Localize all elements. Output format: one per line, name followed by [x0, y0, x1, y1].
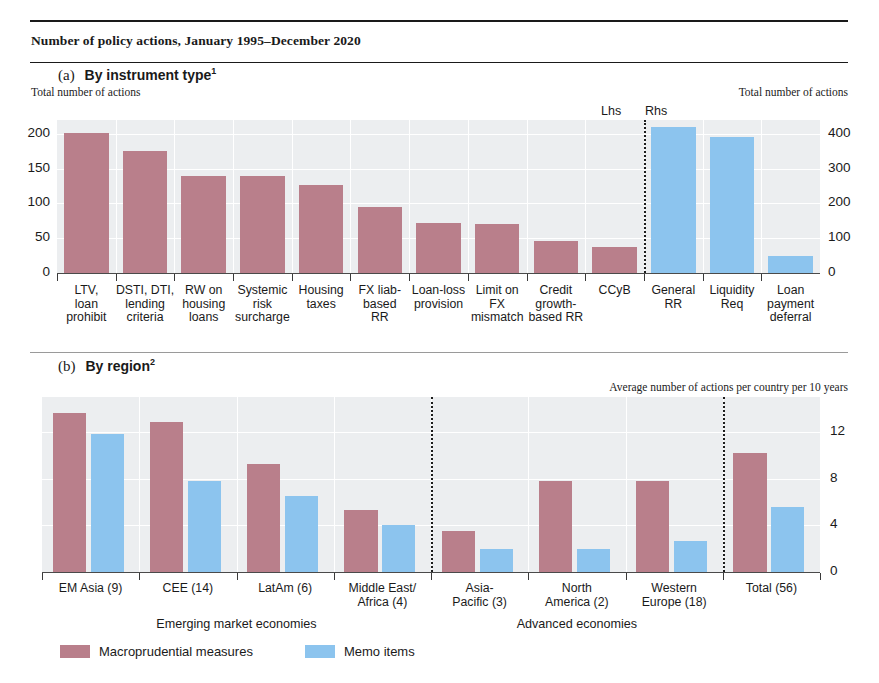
category-label: CEE (14)	[131, 582, 244, 596]
bar	[344, 510, 377, 572]
y-axis-label-right: 100	[828, 229, 874, 244]
legend-swatch-macro-icon	[60, 645, 90, 658]
bar	[299, 185, 344, 273]
panel-a-left-caption: Total number of actions	[31, 86, 140, 98]
bar	[674, 541, 707, 573]
panel-b-letter: (b)	[58, 358, 76, 374]
panel-a-baseline	[57, 273, 820, 274]
bar	[534, 241, 579, 273]
bar	[285, 496, 318, 572]
lhs-rhs-divider	[644, 120, 646, 273]
group-label: Emerging market economies	[42, 617, 431, 631]
y-axis-label-left: 200	[8, 125, 50, 140]
vertical-gridline	[174, 120, 175, 273]
axis-tick	[292, 274, 293, 281]
axis-tick	[237, 573, 238, 580]
axis-tick	[703, 274, 704, 281]
bar	[636, 481, 669, 572]
bar	[240, 176, 285, 273]
vertical-gridline	[626, 397, 627, 572]
legend-swatch-memo-icon	[305, 645, 335, 658]
axis-tick	[116, 274, 117, 281]
vertical-gridline	[409, 120, 410, 273]
panel-a-letter: (a)	[58, 67, 75, 83]
bar	[416, 223, 461, 273]
bar	[733, 453, 766, 572]
panel-a-title-text: By instrument type	[85, 67, 212, 83]
bar	[91, 434, 124, 572]
y-axis-label-right: 200	[828, 194, 874, 209]
bar	[651, 127, 696, 273]
category-label: WesternEurope (18)	[618, 582, 731, 609]
group-divider	[723, 397, 725, 572]
axis-tick	[350, 274, 351, 281]
axis-tick	[585, 274, 586, 281]
category-label: EM Asia (9)	[34, 582, 147, 596]
vertical-gridline	[237, 397, 238, 572]
category-label: Middle East/Africa (4)	[326, 582, 439, 609]
bar	[64, 133, 109, 273]
bar	[247, 464, 280, 573]
legend-item-macro: Macroprudential measures	[60, 644, 253, 659]
vertical-gridline	[116, 120, 117, 273]
panel-a-title: (a) By instrument type1	[58, 66, 216, 84]
y-axis-label-right: 12	[830, 423, 870, 438]
panel-a-plot	[57, 120, 820, 273]
category-label: LatAm (6)	[229, 582, 342, 596]
panel-a-right-caption: Total number of actions	[739, 86, 848, 98]
axis-tick	[174, 274, 175, 281]
category-label: Total (56)	[715, 582, 828, 596]
bar	[181, 176, 226, 273]
figure-page: Number of policy actions, January 1995–D…	[0, 0, 879, 683]
axis-tick	[820, 573, 821, 580]
category-label: Loanpaymentdeferral	[755, 284, 826, 325]
bar	[592, 247, 637, 273]
y-axis-label-right: 300	[828, 160, 874, 175]
category-label: NorthAmerica (2)	[520, 582, 633, 609]
bar	[771, 507, 804, 572]
vertical-gridline	[233, 120, 234, 273]
axis-tick	[334, 573, 335, 580]
bar	[150, 422, 183, 573]
category-label: Asia-Pacific (3)	[423, 582, 536, 609]
bar	[188, 481, 221, 572]
bar	[539, 481, 572, 572]
header-rule-top	[30, 20, 848, 22]
gridline	[57, 134, 820, 135]
y-axis-label-right: 8	[830, 470, 870, 485]
bar	[475, 224, 520, 273]
y-axis-label-left: 0	[8, 264, 50, 279]
axis-tick	[431, 573, 432, 580]
axis-tick	[527, 274, 528, 281]
gridline	[57, 169, 820, 170]
group-divider	[431, 397, 433, 572]
vertical-gridline	[468, 120, 469, 273]
panel-a-lhs-label: Lhs	[601, 104, 621, 118]
vertical-gridline	[703, 120, 704, 273]
panel-b-right-caption: Average number of actions per country pe…	[609, 381, 848, 393]
bar	[123, 151, 168, 273]
vertical-gridline	[139, 397, 140, 572]
gridline	[57, 203, 820, 204]
bar	[53, 413, 86, 572]
axis-tick	[233, 274, 234, 281]
legend-item-memo: Memo items	[305, 644, 415, 659]
axis-tick	[723, 573, 724, 580]
figure-title: Number of policy actions, January 1995–D…	[31, 33, 361, 49]
panel-b-footnote-marker: 2	[150, 357, 155, 367]
y-axis-label-right: 4	[830, 516, 870, 531]
panel-a-rhs-label: Rhs	[645, 104, 667, 118]
vertical-gridline	[761, 120, 762, 273]
y-axis-label-right: 0	[830, 563, 870, 578]
axis-tick	[42, 573, 43, 580]
vertical-gridline	[350, 120, 351, 273]
legend-label-memo: Memo items	[344, 644, 415, 659]
axis-tick	[626, 573, 627, 580]
panel-b-title: (b) By region2	[58, 357, 155, 375]
y-axis-label-left: 50	[8, 229, 50, 244]
y-axis-label-right: 400	[828, 125, 874, 140]
y-axis-label-left: 100	[8, 194, 50, 209]
group-label: Advanced economies	[431, 617, 723, 631]
bar	[382, 525, 415, 572]
axis-tick	[468, 274, 469, 281]
